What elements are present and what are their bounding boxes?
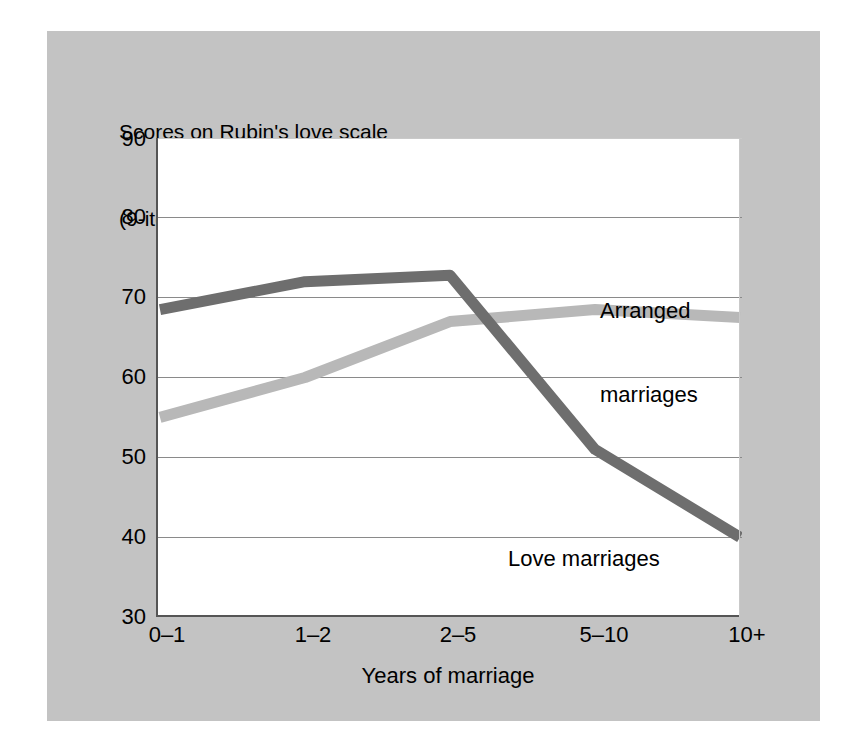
- x-axis-tick-0-1: 0–1: [112, 622, 222, 648]
- plot-right-edge: [739, 138, 740, 617]
- annotation-love-marriages: Love marriages: [508, 489, 660, 629]
- annotation-arranged-line-1: Arranged: [600, 297, 698, 325]
- y-axis-tick-90: 90: [100, 126, 146, 152]
- annotation-love-line-1: Love marriages: [508, 545, 660, 573]
- x-axis-label: Years of marriage: [156, 663, 740, 689]
- chart-figure: Scores on Rubin's love scale (9-item ver…: [0, 0, 867, 753]
- x-axis-tick-1-2: 1–2: [258, 622, 368, 648]
- y-axis-tick-70: 70: [100, 284, 146, 310]
- annotation-arranged-line-2: marriages: [600, 381, 698, 409]
- y-axis-tick-60: 60: [100, 364, 146, 390]
- x-axis-tick-2-5: 2–5: [403, 622, 513, 648]
- plot-top-edge: [158, 138, 742, 139]
- annotation-arranged-marriages: Arranged marriages: [600, 241, 698, 465]
- y-axis-tick-80: 80: [100, 204, 146, 230]
- y-axis-tick-50: 50: [100, 444, 146, 470]
- x-axis-tick-5-10: 5–10: [549, 622, 659, 648]
- y-axis-tick-40: 40: [100, 524, 146, 550]
- x-axis-tick-10-plus: 10+: [692, 622, 802, 648]
